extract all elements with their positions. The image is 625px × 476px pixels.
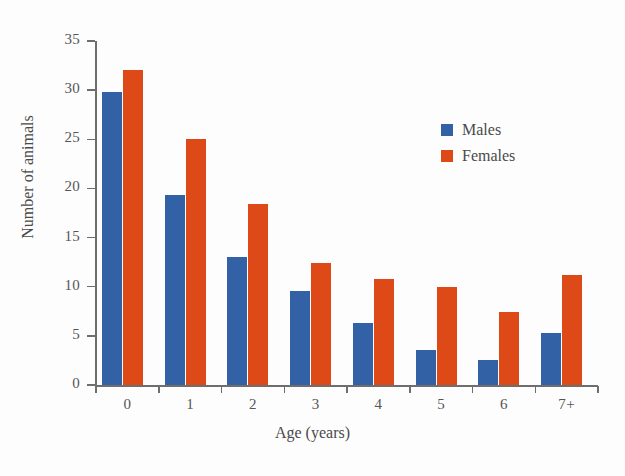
y-tick-mark — [87, 40, 95, 42]
bar-females-age-1 — [186, 139, 206, 385]
legend-item-males: Males — [441, 117, 515, 143]
x-tick-mark — [221, 386, 223, 393]
legend: Males Females — [441, 117, 515, 169]
bar-females-age-7+ — [562, 275, 582, 385]
y-tick-label: 15 — [46, 228, 80, 245]
y-tick-label: 20 — [46, 178, 80, 195]
y-tick-mark — [87, 139, 95, 141]
bar-males-age-5 — [416, 350, 436, 385]
x-tick-label: 6 — [474, 396, 534, 413]
x-tick-label: 7+ — [537, 396, 597, 413]
x-tick-mark — [597, 386, 599, 393]
x-tick-label: 2 — [223, 396, 283, 413]
x-tick-mark — [284, 386, 286, 393]
legend-label-females: Females — [462, 148, 515, 164]
y-tick-label: 25 — [46, 129, 80, 146]
y-tick-mark — [87, 384, 95, 386]
bar-males-age-1 — [165, 195, 185, 385]
bar-males-age-0 — [102, 92, 122, 385]
y-tick-label: 35 — [46, 31, 80, 48]
y-tick-mark — [87, 188, 95, 190]
x-tick-mark — [158, 386, 160, 393]
bar-chart: Number of animals 05101520253035 0123456… — [0, 0, 625, 476]
y-tick-mark — [87, 286, 95, 288]
x-tick-label: 3 — [286, 396, 346, 413]
y-tick-label: 5 — [46, 326, 80, 343]
bar-males-age-6 — [478, 360, 498, 385]
legend-swatch-females-icon — [441, 150, 453, 162]
bar-males-age-3 — [290, 291, 310, 385]
legend-item-females: Females — [441, 143, 515, 169]
bar-females-age-6 — [499, 312, 519, 385]
x-tick-label: 1 — [160, 396, 220, 413]
y-axis-title: Number of animals — [19, 87, 37, 267]
bar-females-age-3 — [311, 263, 331, 385]
bar-males-age-2 — [227, 257, 247, 385]
x-tick-label: 4 — [348, 396, 408, 413]
y-tick-label: 0 — [46, 375, 80, 392]
x-tick-mark — [535, 386, 537, 393]
y-tick-label: 30 — [46, 80, 80, 97]
bar-females-age-0 — [123, 70, 143, 385]
legend-label-males: Males — [462, 122, 501, 138]
legend-swatch-males-icon — [441, 124, 453, 136]
x-tick-mark — [95, 386, 97, 393]
x-axis-title: Age (years) — [0, 424, 625, 442]
y-tick-label: 10 — [46, 277, 80, 294]
y-tick-mark — [87, 89, 95, 91]
bar-females-age-5 — [437, 287, 457, 385]
x-tick-mark — [472, 386, 474, 393]
bar-males-age-4 — [353, 323, 373, 385]
bar-females-age-4 — [374, 279, 394, 385]
y-tick-mark — [87, 335, 95, 337]
x-tick-mark — [409, 386, 411, 393]
y-tick-mark — [87, 237, 95, 239]
x-tick-label: 5 — [411, 396, 471, 413]
bar-males-age-7+ — [541, 333, 561, 385]
x-tick-mark — [346, 386, 348, 393]
x-tick-label: 0 — [97, 396, 157, 413]
bar-females-age-2 — [248, 204, 268, 385]
plot-area — [96, 41, 596, 385]
